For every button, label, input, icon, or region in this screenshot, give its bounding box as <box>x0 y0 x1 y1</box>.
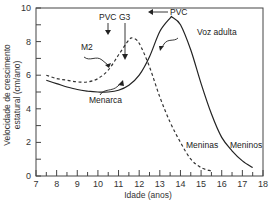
x-tick-label: 17 <box>237 179 247 189</box>
series-meninos-line <box>46 16 252 167</box>
y-axis-title-line2: estatural (cm/ano) <box>12 61 22 130</box>
x-tick-label: 11 <box>114 179 123 189</box>
x-tick-label: 12 <box>134 179 144 189</box>
label-menarca: Menarca <box>89 95 122 105</box>
x-tick-label: 13 <box>155 179 165 189</box>
y-tick-label: 4 <box>26 104 31 114</box>
x-tick-label: 9 <box>75 179 80 189</box>
x-axis-title: Idade (anos) <box>124 190 172 200</box>
x-tick-label: 14 <box>175 179 185 189</box>
y-tick-label: 0 <box>26 171 31 181</box>
label-pvc-boys: PVC <box>170 7 187 17</box>
x-tick-label: 18 <box>258 179 268 189</box>
label-m2: M2 <box>81 42 93 52</box>
arrowhead-pvc-girls <box>105 30 111 35</box>
y-tick-label: 2 <box>26 137 31 147</box>
arrowhead-g3 <box>122 54 128 60</box>
label-meninos: Meninos <box>230 140 262 150</box>
y-tick-label: 6 <box>26 70 31 80</box>
arrow-m2 <box>84 57 108 65</box>
y-tick-label: 8 <box>26 37 31 47</box>
label-meninas: Meninas <box>186 140 218 150</box>
y-axis-ticks: 0246810 <box>21 3 41 181</box>
y-axis-title-line1: Velocidade de crescimento <box>2 44 12 146</box>
arrowhead-voz-adulta <box>159 46 164 51</box>
arrow-menarca <box>100 83 121 95</box>
arrowhead-pvc-boys <box>148 9 153 15</box>
growth-velocity-chart: 0246810 789101112131415161718 Idade (ano… <box>0 0 273 205</box>
label-voz-adulta: Voz adulta <box>197 27 237 37</box>
x-tick-label: 8 <box>54 179 59 189</box>
x-tick-label: 15 <box>196 179 206 189</box>
x-tick-label: 16 <box>217 179 227 189</box>
label-g3: G3 <box>119 12 131 22</box>
series-meninas-line <box>46 38 211 171</box>
y-tick-label: 10 <box>21 3 31 13</box>
label-pvc-girls: PVC <box>99 12 116 22</box>
x-tick-label: 10 <box>93 179 103 189</box>
x-axis-ticks: 789101112131415161718 <box>33 170 268 189</box>
arrowhead-menarca <box>118 80 124 86</box>
x-tick-label: 7 <box>33 179 38 189</box>
